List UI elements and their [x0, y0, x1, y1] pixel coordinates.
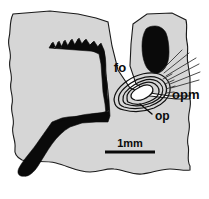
label-opm: opm	[172, 87, 199, 102]
figure-root: fo op opm 1mm	[0, 0, 209, 199]
scale-bar-label: 1mm	[117, 137, 143, 149]
anatomical-diagram-svg: fo op opm 1mm	[0, 0, 209, 199]
label-op: op	[155, 109, 170, 123]
bone-small-upper-right	[142, 26, 169, 73]
label-fo: fo	[114, 60, 126, 75]
